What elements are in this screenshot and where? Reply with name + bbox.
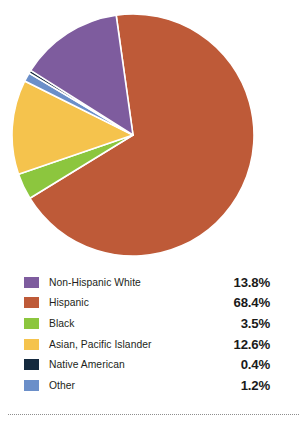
legend-color-swatch <box>24 359 39 370</box>
legend-color-swatch <box>24 318 39 329</box>
chart-legend: Non-Hispanic White13.8%Hispanic68.4%Blac… <box>0 272 307 396</box>
legend-item-value: 0.4% <box>221 357 307 372</box>
legend-item-value: 68.4% <box>221 295 307 310</box>
legend-item-value: 12.6% <box>221 337 307 352</box>
legend-item-value: 3.5% <box>221 316 307 331</box>
legend-item: Non-Hispanic White13.8% <box>0 272 307 293</box>
legend-item-value: 1.2% <box>221 378 307 393</box>
legend-color-swatch <box>24 297 39 308</box>
legend-item: Black3.5% <box>0 313 307 334</box>
legend-color-swatch <box>24 380 39 391</box>
legend-color-swatch <box>24 339 39 350</box>
legend-item: Asian, Pacific Islander12.6% <box>0 334 307 355</box>
bottom-divider <box>8 414 299 415</box>
pie-chart-figure <box>0 0 307 268</box>
pie-chart-svg <box>11 11 255 259</box>
legend-item: Hispanic68.4% <box>0 293 307 314</box>
legend-item: Other1.2% <box>0 375 307 396</box>
legend-item: Native American0.4% <box>0 354 307 375</box>
legend-item-value: 13.8% <box>221 275 307 290</box>
legend-color-swatch <box>24 277 39 288</box>
